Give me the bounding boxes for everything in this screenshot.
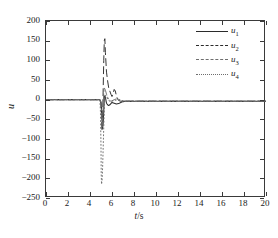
legend-label-u2: u2	[228, 40, 239, 52]
legend-item-u3[interactable]: u3	[196, 55, 258, 65]
legend-line-solid-icon	[196, 27, 228, 36]
legend-label-u3: u3	[228, 54, 239, 66]
x-tick-6	[112, 192, 113, 196]
x-tick-4	[90, 192, 91, 196]
x-tick-label-2: 2	[55, 199, 79, 208]
y-tick-1	[46, 41, 50, 42]
legend-line-dashdot-icon	[196, 55, 228, 64]
y-tick-8	[46, 178, 50, 179]
x-tick-14	[200, 192, 201, 196]
y-tick-0	[46, 21, 50, 22]
x-tick-8	[134, 21, 135, 25]
x-tick-label-8: 8	[121, 199, 145, 208]
y-tick-label-8: −200	[0, 173, 40, 182]
y-tick-label-7: −150	[0, 153, 40, 162]
x-tick-16	[222, 21, 223, 25]
y-tick-label-1: 150	[0, 35, 40, 44]
x-tick-18	[244, 192, 245, 196]
x-tick-2	[68, 192, 69, 196]
x-tick-4	[90, 21, 91, 25]
x-tick-10	[156, 192, 157, 196]
y-tick-4	[260, 100, 264, 101]
series-line-u4	[46, 95, 266, 184]
x-tick-label-18: 18	[231, 199, 255, 208]
y-tick-5	[260, 119, 264, 120]
y-tick-1	[260, 41, 264, 42]
y-tick-label-2: 100	[0, 55, 40, 64]
x-axis-title-unit: /s	[137, 211, 143, 221]
y-tick-3	[46, 80, 50, 81]
y-tick-label-3: 50	[0, 75, 40, 84]
x-tick-label-14: 14	[187, 199, 211, 208]
y-tick-0	[260, 21, 264, 22]
x-tick-12	[178, 192, 179, 196]
legend: u1u2u3u4	[196, 26, 258, 79]
series-line-u1	[46, 96, 266, 128]
y-tick-9	[260, 198, 264, 199]
legend-label-u1: u1	[228, 25, 239, 37]
x-tick-20	[266, 192, 267, 196]
x-tick-6	[112, 21, 113, 25]
series-line-u3	[46, 88, 266, 127]
y-tick-7	[260, 159, 264, 160]
y-tick-label-6: −100	[0, 134, 40, 143]
y-tick-9	[46, 198, 50, 199]
y-tick-8	[260, 178, 264, 179]
y-axis-title: u	[5, 104, 16, 109]
x-tick-0	[46, 192, 47, 196]
x-tick-2	[68, 21, 69, 25]
legend-item-u4[interactable]: u4	[196, 69, 258, 79]
y-tick-6	[260, 139, 264, 140]
y-tick-7	[46, 159, 50, 160]
y-tick-label-0: 200	[0, 16, 40, 25]
x-axis-title: t/s	[0, 211, 278, 221]
y-tick-2	[260, 60, 264, 61]
y-tick-label-4: 0	[0, 94, 40, 103]
x-tick-label-10: 10	[143, 199, 167, 208]
x-tick-label-6: 6	[99, 199, 123, 208]
x-tick-20	[266, 21, 267, 25]
y-tick-4	[46, 100, 50, 101]
x-tick-label-20: 20	[253, 199, 277, 208]
chart-figure: u 200150100500−50−100−150−200−250 024681…	[0, 0, 278, 238]
x-tick-label-12: 12	[165, 199, 189, 208]
x-tick-label-0: 0	[33, 199, 57, 208]
x-tick-12	[178, 21, 179, 25]
legend-item-u2[interactable]: u2	[196, 40, 258, 50]
y-tick-label-5: −50	[0, 114, 40, 123]
x-tick-14	[200, 21, 201, 25]
legend-item-u1[interactable]: u1	[196, 26, 258, 36]
legend-label-u4: u4	[228, 68, 239, 80]
legend-line-dashed-icon	[196, 41, 228, 50]
y-tick-2	[46, 60, 50, 61]
y-tick-5	[46, 119, 50, 120]
x-tick-16	[222, 192, 223, 196]
y-tick-6	[46, 139, 50, 140]
x-tick-18	[244, 21, 245, 25]
x-tick-label-4: 4	[77, 199, 101, 208]
x-tick-10	[156, 21, 157, 25]
legend-line-dotted-icon	[196, 70, 228, 79]
x-tick-8	[134, 192, 135, 196]
y-tick-3	[260, 80, 264, 81]
x-tick-label-16: 16	[209, 199, 233, 208]
